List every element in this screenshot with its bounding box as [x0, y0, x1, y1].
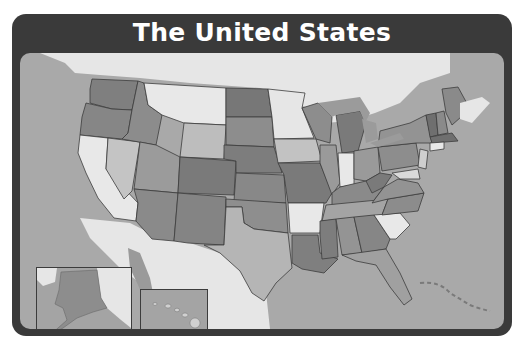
- map-title: The United States: [12, 18, 512, 48]
- state-utah: [134, 142, 180, 193]
- state-maryland: [392, 169, 420, 179]
- state-wyoming: [180, 123, 226, 159]
- state-mississippi: [320, 219, 338, 259]
- state-north-dakota: [226, 88, 272, 117]
- state-new-mexico: [174, 193, 226, 245]
- state-pennsylvania: [378, 143, 420, 171]
- caribbean-islands: [420, 283, 490, 311]
- hawaii-inset: Hawaii: [140, 289, 208, 329]
- state-colorado: [178, 157, 236, 195]
- state-michigan: [336, 111, 366, 153]
- alaska-inset: Alaska: [36, 267, 132, 329]
- state-arkansas: [288, 203, 324, 233]
- state-iowa: [274, 139, 322, 163]
- state-connecticut: [430, 142, 444, 151]
- state-indiana: [338, 153, 354, 187]
- us-map: Alaska Hawaii: [20, 53, 504, 329]
- state-new-hampshire: [436, 111, 448, 135]
- hawaii-map: [141, 290, 207, 329]
- alaska-map: [37, 268, 131, 329]
- state-kansas: [234, 173, 286, 203]
- state-south-dakota: [226, 117, 274, 147]
- map-frame: The United States: [12, 14, 512, 336]
- state-florida: [342, 249, 412, 305]
- state-new-jersey: [418, 149, 428, 169]
